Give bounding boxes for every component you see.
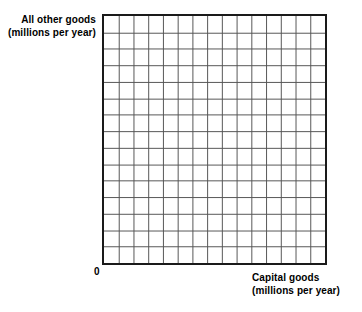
x-axis-label: Capital goods (millions per year) (252, 271, 340, 297)
x-axis-label-line1: Capital goods (252, 271, 340, 284)
y-axis-label: All other goods (millions per year) (0, 13, 96, 39)
y-axis-label-line2: (millions per year) (0, 26, 96, 39)
origin-label: 0 (94, 266, 100, 278)
grid-lines (104, 16, 325, 263)
x-axis-label-line2: (millions per year) (252, 284, 340, 297)
y-axis-label-line1: All other goods (0, 13, 96, 26)
grid-plot-area[interactable] (102, 14, 327, 265)
production-possibilities-figure: All other goods (millions per year) 0 Ca… (0, 0, 362, 312)
